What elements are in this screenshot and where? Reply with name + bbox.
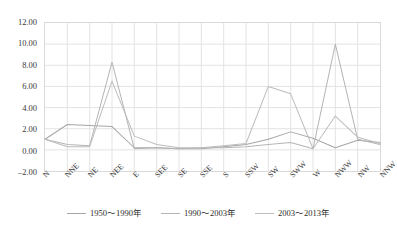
y-axis-tick-label: 8.00 xyxy=(22,60,37,69)
y-axis-tick-label: 12.00 xyxy=(18,18,37,27)
legend-label: 2003～2013年 xyxy=(278,208,330,218)
series-line-2 xyxy=(45,44,380,149)
legend-item-2[interactable]: 1990～2003年 xyxy=(161,208,236,218)
wind-direction-line-chart: 12.0010.008.006.004.002.000.00–2.00 NNNE… xyxy=(0,0,397,235)
y-axis-tick-label: 10.00 xyxy=(18,39,37,48)
series-lines xyxy=(45,23,380,171)
legend-line-swatch xyxy=(67,213,86,214)
plot-area xyxy=(44,22,381,172)
y-axis-tick-label: 6.00 xyxy=(22,82,37,91)
legend-label: 1990～2003年 xyxy=(184,208,236,218)
legend-line-swatch xyxy=(255,213,274,214)
y-axis-tick-label: –2.00 xyxy=(18,168,37,177)
y-axis-tick-labels: 12.0010.008.006.004.002.000.00–2.00 xyxy=(0,22,40,172)
x-axis-tick-labels: NNNENENEEESEESESSESSSWSWSWWWNWWNWNNW xyxy=(44,173,381,203)
chart-legend: 1950～1990年1990～2003年2003～2013年 xyxy=(0,208,397,218)
series-line-1 xyxy=(45,124,380,148)
y-axis-tick-label: 2.00 xyxy=(22,125,37,134)
legend-line-swatch xyxy=(161,213,180,214)
legend-label: 1950～1990年 xyxy=(90,208,142,218)
legend-item-1[interactable]: 1950～1990年 xyxy=(67,208,142,218)
y-axis-tick-label: 0.00 xyxy=(22,146,37,155)
series-line-3 xyxy=(45,81,380,149)
legend-item-3[interactable]: 2003～2013年 xyxy=(255,208,330,218)
y-axis-tick-label: 4.00 xyxy=(22,103,37,112)
